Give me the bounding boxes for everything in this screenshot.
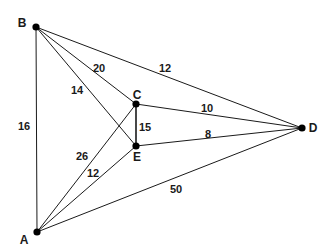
node-label-a: A: [20, 233, 29, 247]
node-label-c: C: [133, 88, 142, 102]
edge-weight-b-c: 20: [93, 62, 105, 74]
edge-weight-a-e: 12: [87, 167, 99, 179]
edge-weight-c-e: 15: [139, 121, 151, 133]
node-e: [132, 142, 139, 149]
graph-diagram: 1612201415108261250 ABCDE: [0, 0, 329, 252]
node-label-b: B: [18, 16, 27, 30]
edge-weight-b-e: 14: [71, 84, 84, 96]
node-label-d: D: [309, 121, 318, 135]
node-d: [298, 124, 305, 131]
edge-b-e: [36, 27, 136, 146]
node-a: [33, 228, 40, 235]
edge-weight-a-d: 50: [170, 183, 182, 195]
edge-weight-a-c: 26: [76, 150, 88, 162]
node-label-e: E: [133, 150, 141, 164]
edge-b-d: [36, 27, 302, 128]
edge-weight-e-d: 8: [205, 128, 211, 140]
edge-weight-c-d: 10: [201, 102, 213, 114]
edge-e-d: [136, 128, 302, 146]
edge-b-a: [36, 27, 37, 232]
edge-weight-b-d: 12: [159, 62, 171, 74]
edge-weight-b-a: 16: [18, 120, 30, 132]
edges: [36, 27, 302, 232]
edge-b-c: [36, 27, 136, 104]
edge-weights: 1612201415108261250: [18, 62, 213, 195]
node-b: [32, 23, 39, 30]
edge-c-d: [136, 104, 302, 128]
